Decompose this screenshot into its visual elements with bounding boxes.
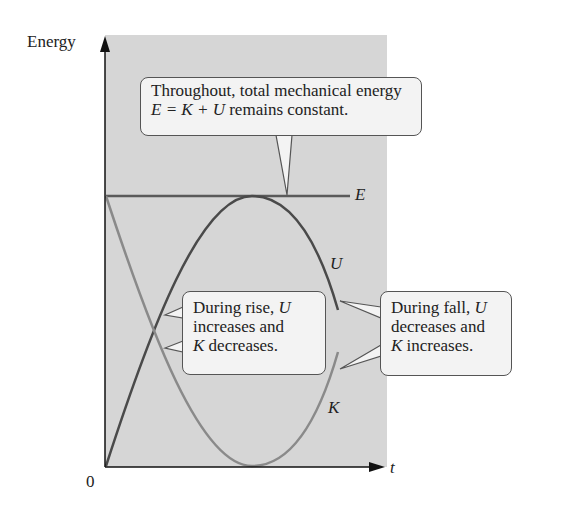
callout-total-line2: E = K + U remains constant. [151,100,411,119]
energy-diagram [0,0,561,506]
callout-total-line2-rest: remains constant. [225,100,348,119]
x-axis-label: t [390,458,395,478]
fall-line2: decreases and [391,317,501,336]
y-axis-label: Energy [27,32,76,52]
callout-during-fall: During fall, U decreases and K increases… [380,291,512,376]
callout-total-line1: Throughout, total mechanical energy [151,81,411,100]
fall-line3-var: K [391,336,402,355]
rise-line1-text: During rise, [193,298,278,317]
K-label: K [328,398,339,418]
rise-line2: increases and [193,317,315,336]
rise-line1: During rise, U [193,298,315,317]
E-label: E [355,185,365,205]
rise-line3: K decreases. [193,336,315,355]
callout-total-energy: Throughout, total mechanical energy E = … [140,77,422,136]
rise-line1-var: U [278,298,290,317]
fall-line1: During fall, U [391,298,501,317]
rise-line3-var: K [193,336,204,355]
fall-line3: K increases. [391,336,501,355]
fall-line1-text: During fall, [391,298,475,317]
rise-line3-rest: decreases. [204,336,278,355]
fall-line1-var: U [475,298,487,317]
equation: E = K + U [151,100,225,119]
fall-line3-rest: increases. [402,336,473,355]
origin-label: 0 [86,472,95,492]
callout-during-rise: During rise, U increases and K decreases… [182,291,326,375]
U-label: U [330,254,342,274]
